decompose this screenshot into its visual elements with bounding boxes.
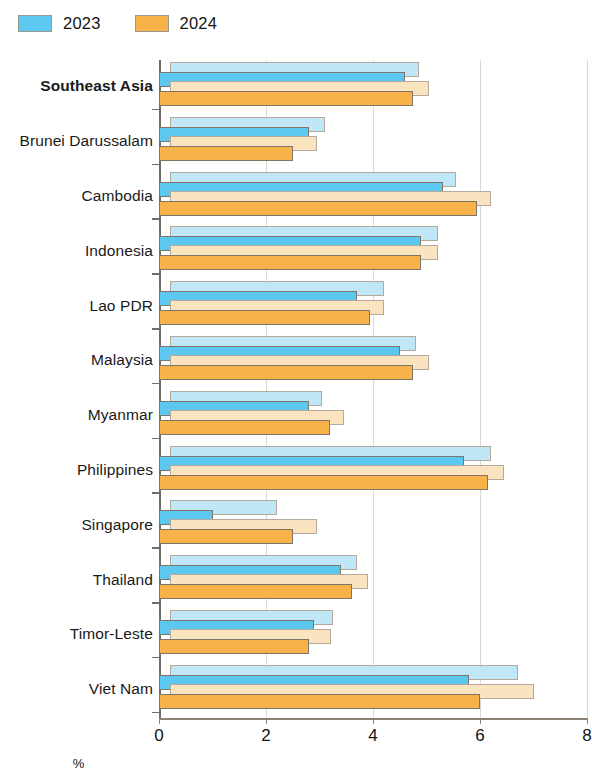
row-bars (159, 389, 587, 444)
legend-swatch-2024-icon (135, 15, 169, 32)
row-bars (159, 498, 587, 553)
x-axis-label-4: 4 (368, 726, 377, 746)
row-bars (159, 608, 587, 663)
category-label-malaysia: Malaysia (3, 351, 153, 369)
row-bars (159, 115, 587, 170)
category-label-myanmar: Myanmar (3, 406, 153, 424)
bar-front-2024 (159, 365, 413, 380)
bar-front-2024 (159, 529, 293, 544)
row-bars (159, 663, 587, 718)
bar-front-2024 (159, 255, 421, 270)
category-label-indonesia: Indonesia (3, 242, 153, 260)
chart-row: Lao PDR (0, 279, 587, 334)
x-axis-tick-labels: 02468 (0, 726, 587, 752)
x-tick-8 (587, 718, 588, 724)
gridline-8 (587, 60, 588, 718)
chart-row: Southeast Asia (0, 60, 587, 115)
chart-plot-area: Southeast AsiaBrunei DarussalamCambodiaI… (0, 52, 587, 722)
legend-item-2024: 2024 (135, 14, 218, 33)
category-label-thailand: Thailand (3, 571, 153, 589)
bar-front-2024 (159, 420, 330, 435)
category-label-viet-nam: Viet Nam (3, 680, 153, 698)
bar-front-2024 (159, 639, 309, 654)
x-axis-line (159, 718, 587, 720)
legend-label-2023: 2023 (63, 14, 101, 33)
x-axis-label-2: 2 (261, 726, 270, 746)
row-bars (159, 444, 587, 499)
row-bars (159, 334, 587, 389)
x-axis-title-text: % (73, 756, 85, 771)
category-label-lao-pdr: Lao PDR (3, 297, 153, 315)
legend-label-2024: 2024 (180, 14, 218, 33)
chart-row: Brunei Darussalam (0, 115, 587, 170)
chart-row: Indonesia (0, 224, 587, 279)
chart-row: Singapore (0, 498, 587, 553)
bar-front-2024 (159, 146, 293, 161)
row-bars (159, 279, 587, 334)
bar-front-2024 (159, 201, 477, 216)
row-bars (159, 170, 587, 225)
x-axis-label-0: 0 (154, 726, 163, 746)
chart-row: Viet Nam (0, 663, 587, 718)
chart-row: Timor-Leste (0, 608, 587, 663)
bar-front-2024 (159, 694, 480, 709)
bar-front-2024 (159, 475, 488, 490)
chart-row: Malaysia (0, 334, 587, 389)
category-label-timor-leste: Timor-Leste (3, 625, 153, 643)
bar-front-2024 (159, 310, 370, 325)
x-axis-label-8: 8 (582, 726, 591, 746)
chart-row: Philippines (0, 444, 587, 499)
row-bars (159, 224, 587, 279)
category-label-singapore: Singapore (3, 516, 153, 534)
category-label-cambodia: Cambodia (3, 187, 153, 205)
row-bars (159, 553, 587, 608)
chart-row: Cambodia (0, 170, 587, 225)
chart-row: Myanmar (0, 389, 587, 444)
x-axis-title: % (0, 756, 587, 771)
chart-row: Thailand (0, 553, 587, 608)
chart-legend: 2023 2024 (18, 6, 217, 40)
category-label-brunei-darussalam: Brunei Darussalam (3, 132, 153, 150)
x-axis-label-6: 6 (475, 726, 484, 746)
bar-front-2024 (159, 91, 413, 106)
legend-item-2023: 2023 (18, 14, 101, 33)
bar-front-2024 (159, 584, 352, 599)
category-label-philippines: Philippines (3, 461, 153, 479)
category-label-southeast-asia: Southeast Asia (3, 77, 153, 95)
row-bars (159, 60, 587, 115)
legend-swatch-2023-icon (18, 15, 52, 32)
